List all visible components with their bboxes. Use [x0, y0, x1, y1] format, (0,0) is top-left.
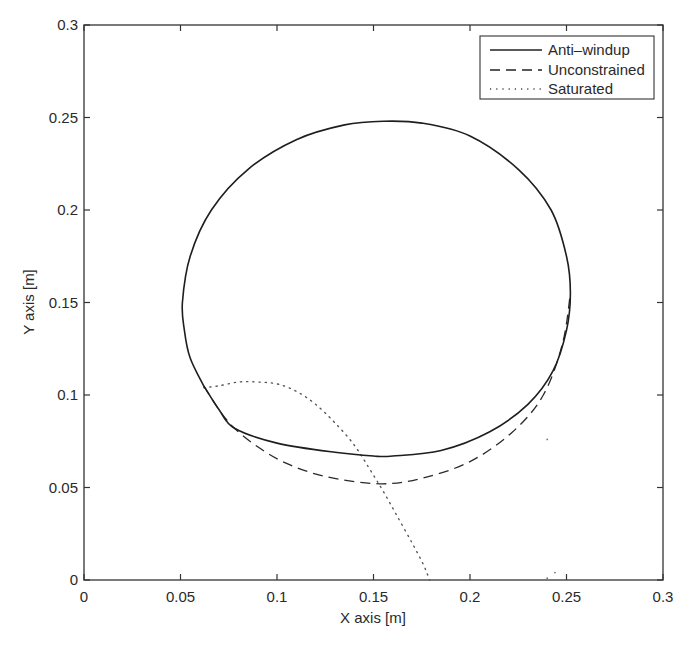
legend: Anti–windup Unconstrained Saturated — [480, 36, 654, 99]
y-tick-label: 0.1 — [57, 386, 78, 403]
axis-ticks: 00.050.10.150.20.250.300.050.10.150.20.2… — [49, 16, 674, 605]
trajectory-plot: 00.050.10.150.20.250.300.050.10.150.20.2… — [0, 0, 699, 645]
y-tick-label: 0.15 — [49, 294, 78, 311]
x-axis-label: X axis [m] — [340, 609, 406, 626]
series-unconstrained — [204, 293, 571, 484]
x-tick-label: 0.25 — [552, 588, 581, 605]
y-tick-label: 0.2 — [57, 201, 78, 218]
legend-label-anti-windup: Anti–windup — [548, 41, 630, 58]
y-tick-label: 0.25 — [49, 109, 78, 126]
x-tick-label: 0.05 — [166, 588, 195, 605]
x-tick-label: 0.1 — [267, 588, 288, 605]
stray-dot — [546, 577, 548, 579]
y-tick-label: 0.3 — [57, 16, 78, 33]
series-saturated — [204, 382, 430, 580]
stray-dot — [554, 572, 556, 574]
x-tick-label: 0 — [80, 588, 88, 605]
legend-label-saturated: Saturated — [548, 80, 613, 97]
series-anti-windup — [182, 121, 570, 457]
y-tick-label: 0.05 — [49, 479, 78, 496]
axes-frame — [84, 25, 663, 580]
y-tick-label: 0 — [70, 571, 78, 588]
legend-label-unconstrained: Unconstrained — [548, 61, 645, 78]
y-axis-label: Y axis [m] — [20, 269, 37, 335]
x-tick-label: 0.15 — [359, 588, 388, 605]
stray-dot — [546, 439, 548, 441]
data-series — [182, 121, 570, 580]
x-tick-label: 0.2 — [460, 588, 481, 605]
x-tick-label: 0.3 — [653, 588, 674, 605]
